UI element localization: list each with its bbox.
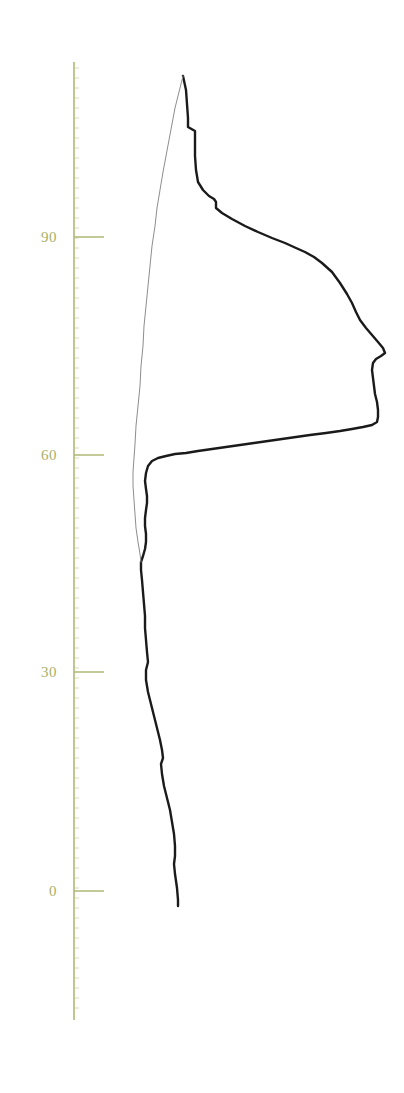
tick-label-0: 0 [49, 883, 57, 899]
tick-label-60: 60 [41, 447, 57, 463]
profile-plot-svg: 0306090 [0, 0, 404, 1093]
tick-label-90: 90 [41, 229, 57, 245]
tick-label-30: 30 [41, 664, 57, 680]
chart-container: 0306090 [0, 0, 404, 1093]
plot-background [0, 0, 404, 1093]
